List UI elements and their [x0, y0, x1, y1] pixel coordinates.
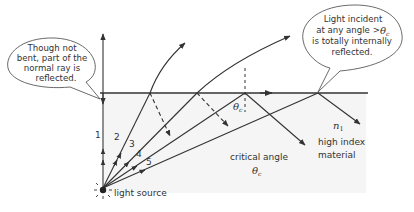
material-label-line-1: high index — [318, 137, 366, 147]
callout-tir-line-3: is totally internally — [312, 36, 392, 46]
ray-label-3: 3 — [129, 139, 135, 149]
total-internal-reflection-diagram: light source 1 2 3 4 5 θc critical angle… — [0, 0, 414, 212]
callout-normal-line-4: reflected. — [36, 73, 77, 83]
material-label-line-2: material — [318, 150, 356, 160]
callout-tir-line-2: at any angle > — [316, 25, 380, 35]
critical-angle-label: critical angle — [230, 152, 288, 162]
ray-label-1: 1 — [95, 130, 101, 140]
callout-normal-ray: Though not bent, part of the normal ray … — [8, 38, 100, 99]
callout-tir-line-4: reflected. — [332, 47, 373, 57]
ray-label-4: 4 — [136, 149, 142, 159]
callout-tir: Light incident at any angle > θc is tota… — [303, 5, 403, 92]
ray-label-2: 2 — [114, 132, 120, 142]
callout-normal-line-2: bent, part of the — [17, 53, 88, 63]
callout-tir-line-1: Light incident — [324, 14, 383, 24]
callout-normal-line-1: Though not — [26, 43, 77, 53]
callout-normal-line-3: normal ray is — [24, 63, 81, 73]
light-source-label: light source — [114, 188, 167, 198]
ray-label-5: 5 — [146, 157, 152, 167]
